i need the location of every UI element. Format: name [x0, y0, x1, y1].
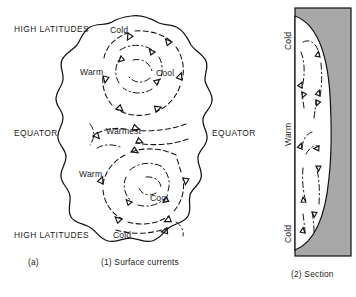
label-high-latitudes-bottom: HIGH LATITUDES [14, 230, 89, 240]
panel-section: Cold Warm Cold (2) Section [283, 8, 351, 279]
label-cool-lower: Cool [150, 193, 168, 203]
label-equator-left: EQUATOR [14, 128, 58, 138]
label-high-latitudes-top: HIGH LATITUDES [14, 24, 89, 34]
label-cold-bottom: Cold [113, 230, 131, 240]
diagram-svg: Cold Warm Cool Warmest Warm Cool Cold HI… [0, 0, 356, 297]
panel-surface-currents: Cold Warm Cool Warmest Warm Cool Cold HI… [14, 15, 256, 267]
caption-letter-a: (a) [28, 257, 39, 267]
caption-surface-currents: (1) Surface currents [101, 257, 179, 267]
section-label-cold-bottom: Cold [283, 225, 293, 243]
section-label-cold-top: Cold [283, 32, 293, 50]
label-cold-top: Cold [110, 25, 128, 35]
label-equator-right: EQUATOR [212, 128, 256, 138]
label-warm-lower: Warm [79, 169, 102, 179]
label-warm-upper: Warm [80, 67, 103, 77]
section-label-warm: Warm [283, 123, 293, 146]
caption-section: (2) Section [291, 269, 334, 279]
label-warmest: Warmest [106, 126, 142, 136]
figure-container: Cold Warm Cool Warmest Warm Cool Cold HI… [0, 0, 356, 297]
label-cool-upper: Cool [156, 68, 174, 78]
